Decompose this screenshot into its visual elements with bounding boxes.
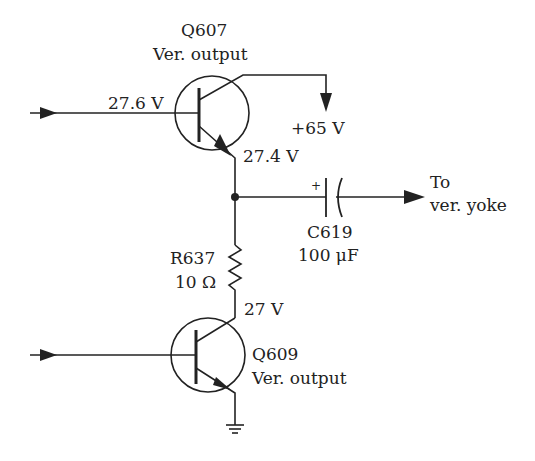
input-arrow-icon	[40, 107, 57, 119]
c619-value: 100 μF	[298, 245, 359, 265]
q607-base-voltage: 27.6 V	[108, 93, 164, 113]
c619-polarity: +	[311, 176, 321, 196]
output-label-line1: To	[430, 172, 450, 192]
q607-ref: Q607	[181, 20, 227, 40]
emitter-arrow-icon	[213, 377, 231, 390]
q609-desc: Ver. output	[252, 368, 347, 388]
r637-value: 10 Ω	[175, 272, 216, 292]
emitter-arrow-icon	[214, 134, 231, 156]
r637-ref: R637	[170, 248, 215, 268]
schematic-wires	[0, 0, 535, 461]
circuit-diagram: Q607 Ver. output 27.6 V 27.4 V +65 V + C…	[0, 0, 535, 461]
junction-dot-icon	[231, 193, 239, 201]
q607-emitter-voltage: 27.4 V	[243, 146, 299, 166]
q609-collector-voltage: 27 V	[244, 299, 283, 319]
input-arrow-icon	[40, 349, 57, 361]
supply-label: +65 V	[291, 118, 345, 138]
c619-ref: C619	[307, 222, 352, 242]
q609-ref: Q609	[252, 344, 298, 364]
output-label-line2: ver. yoke	[430, 195, 507, 215]
supply-arrow-icon	[320, 93, 332, 112]
output-arrow-icon	[404, 190, 425, 204]
q607-desc: Ver. output	[153, 44, 248, 64]
